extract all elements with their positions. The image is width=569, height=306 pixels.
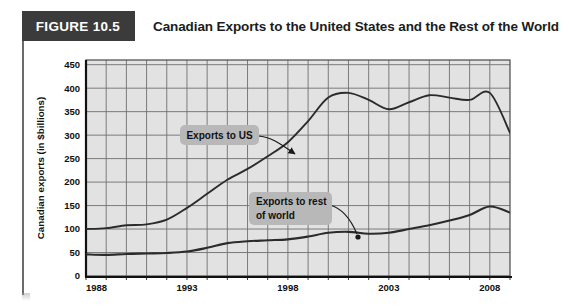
figure-title: Canadian Exports to the United States an…: [135, 11, 559, 41]
figure-body-frame: [22, 41, 569, 295]
figure-number-tag: FIGURE 10.5: [22, 11, 135, 41]
figure-root: FIGURE 10.5 Canadian Exports to the Unit…: [0, 0, 569, 306]
figure-header: FIGURE 10.5 Canadian Exports to the Unit…: [22, 11, 569, 41]
